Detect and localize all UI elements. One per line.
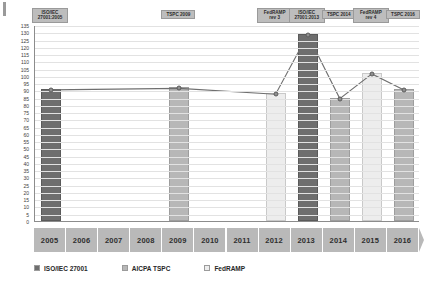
gridline [35, 113, 419, 114]
gridline [35, 62, 419, 63]
y-axis-tick: 130 [21, 31, 29, 36]
x-axis-year-2016: 2016 [387, 228, 419, 252]
x-axis-year-2006: 2006 [66, 228, 98, 252]
y-axis-tick: 5 [26, 212, 29, 217]
data-point-2009 [177, 86, 182, 91]
y-axis-tick: 135 [21, 24, 29, 29]
annotation-2016: TSPC 2016 [386, 10, 420, 19]
gridline [35, 207, 419, 208]
y-axis-tick: 105 [21, 67, 29, 72]
y-axis-tick: 65 [23, 125, 29, 130]
gridline [35, 84, 419, 85]
gridline [35, 106, 419, 107]
y-axis-tick: 0 [26, 220, 29, 225]
y-axis-tick: 30 [23, 176, 29, 181]
gridline [35, 120, 419, 121]
y-axis-tick: 35 [23, 169, 29, 174]
gridline [35, 186, 419, 187]
data-point-2014 [337, 96, 342, 101]
gridline [35, 215, 419, 216]
plot-area [34, 26, 419, 222]
edge-artifact [3, 2, 6, 16]
gridline [35, 70, 419, 71]
y-axis-tick: 110 [21, 60, 29, 65]
y-axis-tick: 10 [23, 205, 29, 210]
x-axis-year-band: 2005200620072008200920102011201220132014… [34, 228, 419, 252]
y-axis-tick: 85 [23, 96, 29, 101]
trend-line [51, 35, 404, 99]
x-axis-year-2007: 2007 [98, 228, 130, 252]
annotation-2014: TSPC 2014 [322, 10, 356, 19]
gridline [35, 178, 419, 179]
gridline [35, 149, 419, 150]
x-axis-year-2011: 2011 [227, 228, 259, 252]
x-axis-year-2015: 2015 [355, 228, 387, 252]
gridline [35, 48, 419, 49]
y-axis-tick: 115 [21, 53, 29, 58]
x-axis-year-2009: 2009 [162, 228, 194, 252]
x-axis-year-2008: 2008 [130, 228, 162, 252]
gridline [35, 55, 419, 56]
y-axis-tick: 55 [23, 140, 29, 145]
annotation-2013: ISO/IEC 27001:2013 [289, 8, 325, 23]
data-point-2013 [305, 32, 310, 37]
legend-label-tspc: AICPA TSPC [132, 265, 171, 272]
legend-swatch-fedramp [204, 265, 210, 271]
annotation-2015: FedRAMP rev 4 [353, 8, 389, 23]
y-axis-tick: 95 [23, 82, 29, 87]
x-axis-year-2005: 2005 [34, 228, 66, 252]
gridline [35, 142, 419, 143]
annotation-2005: ISO/IEC 27001:2005 [32, 8, 68, 23]
gridline [35, 171, 419, 172]
annotation-2012: FedRAMP rev 3 [257, 8, 293, 23]
gridline [35, 91, 419, 92]
legend-label-fedramp: FedRAMP [214, 265, 245, 272]
y-axis-tick: 15 [23, 198, 29, 203]
y-axis-tick: 120 [21, 45, 29, 50]
legend-swatch-iso [34, 265, 40, 271]
legend-label-iso: ISO/IEC 27001 [44, 265, 88, 272]
data-point-2015 [369, 71, 374, 76]
gridline [35, 128, 419, 129]
legend-item-fedramp: FedRAMP [204, 265, 245, 272]
legend-item-iso: ISO/IEC 27001 [34, 265, 88, 272]
y-axis-tick: 40 [23, 161, 29, 166]
y-axis-tick: 50 [23, 147, 29, 152]
gridline [35, 33, 419, 34]
y-axis-tick: 45 [23, 154, 29, 159]
gridline [35, 193, 419, 194]
y-axis-tick: 90 [23, 89, 29, 94]
gridline [35, 200, 419, 201]
y-axis-tick: 75 [23, 111, 29, 116]
data-point-2012 [273, 92, 278, 97]
gridline [35, 77, 419, 78]
data-point-2016 [401, 87, 406, 92]
y-axis-tick: 25 [23, 183, 29, 188]
x-axis-band-tip [419, 228, 424, 252]
y-axis-tick: 70 [23, 118, 29, 123]
gridline [35, 99, 419, 100]
legend-swatch-tspc [122, 265, 128, 271]
y-axis-tick: 125 [21, 38, 29, 43]
y-axis-tick: 20 [23, 190, 29, 195]
data-point-2005 [49, 87, 54, 92]
x-axis-year-2012: 2012 [259, 228, 291, 252]
y-axis-tick-labels: 1351301251201151101051009590858075706560… [0, 26, 32, 222]
gridline [35, 157, 419, 158]
y-axis-tick: 60 [23, 132, 29, 137]
gridline [35, 41, 419, 42]
x-axis-year-2010: 2010 [194, 228, 226, 252]
chart-legend: ISO/IEC 27001AICPA TSPCFedRAMP [34, 262, 364, 274]
annotation-2009: TSPC 2009 [161, 10, 195, 19]
gridline [35, 164, 419, 165]
y-axis-tick: 100 [21, 74, 29, 79]
x-axis-year-2014: 2014 [323, 228, 355, 252]
gridline [35, 135, 419, 136]
gridline [35, 26, 419, 27]
legend-item-tspc: AICPA TSPC [122, 265, 171, 272]
y-axis-tick: 80 [23, 103, 29, 108]
x-axis-year-2013: 2013 [291, 228, 323, 252]
